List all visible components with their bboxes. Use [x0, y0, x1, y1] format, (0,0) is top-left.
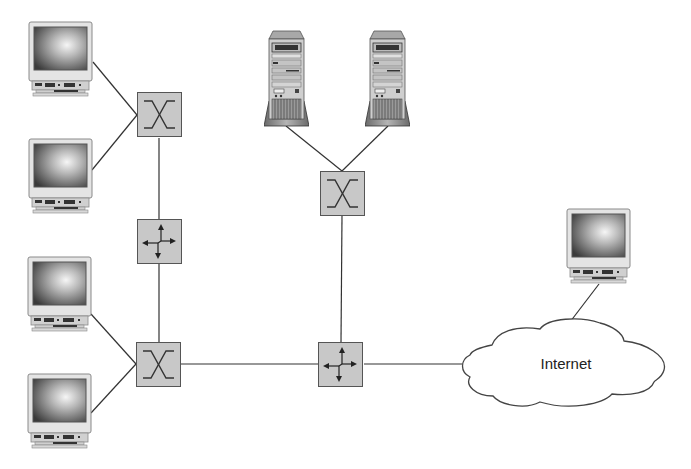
- switch1-icon[interactable]: [138, 93, 182, 137]
- server1-tower-icon[interactable]: [264, 31, 309, 126]
- workstation-pc2-monitor-icon[interactable]: [29, 139, 92, 213]
- link-internet-pc5: [570, 284, 599, 322]
- link-switch3-router2: [341, 216, 342, 342]
- workstation-pc4-monitor-icon[interactable]: [28, 374, 91, 448]
- workstation-pc1-monitor-icon[interactable]: [29, 22, 92, 96]
- workstation-pc5-monitor-icon[interactable]: [567, 209, 630, 283]
- internet-cloud[interactable]: Internet: [463, 319, 665, 406]
- link-pc1-switch1: [93, 62, 137, 115]
- server2-tower-icon[interactable]: [365, 31, 410, 126]
- link-pc4-switch2: [91, 364, 136, 413]
- workstation-pc3-monitor-icon[interactable]: [28, 257, 91, 331]
- network-diagram: Internet: [0, 0, 691, 469]
- link-pc2-switch1: [92, 115, 137, 170]
- cloud-label: Internet: [541, 355, 593, 372]
- link-server1-switch3: [286, 126, 342, 171]
- router2-icon[interactable]: [319, 343, 363, 387]
- router1-icon[interactable]: [138, 220, 182, 264]
- switch3-icon[interactable]: [321, 172, 365, 216]
- link-pc3-switch2: [91, 314, 136, 364]
- switch2-icon[interactable]: [137, 343, 181, 387]
- link-server2-switch3: [342, 126, 388, 171]
